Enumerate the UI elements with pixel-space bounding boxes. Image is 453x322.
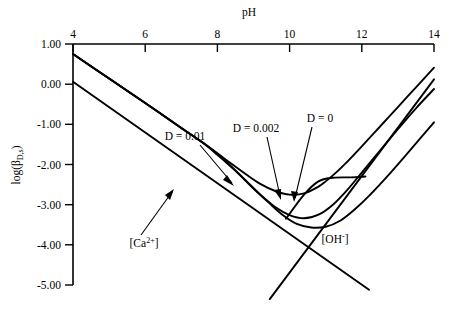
species-label-calcium: [Ca2+] [130, 236, 159, 249]
hydroxide-bracket-close: ] [345, 233, 349, 245]
annotation-calcium: [Ca2+] [130, 189, 174, 249]
arrowhead-d-0.002 [274, 189, 281, 200]
y-tick-label--4.00: -4.00 [37, 239, 61, 251]
annotation-d-0.002: D = 0.002 [233, 122, 281, 200]
x-tick-label-10: 10 [284, 28, 296, 40]
x-tick-label-14: 14 [428, 28, 440, 40]
x-axis: 4 6 8 10 12 14 pH [70, 6, 440, 52]
species-label-hydroxide: [OH-] [322, 232, 349, 245]
x-axis-title: pH [242, 6, 256, 19]
arrowhead-calcium [165, 189, 174, 200]
arrowhead-d-0 [291, 191, 298, 202]
y-tick-label--5.00: -5.00 [37, 279, 61, 291]
annotation-label-d-0.01: D = 0.01 [165, 130, 206, 142]
svg-text:log(βD,s): log(βD,s) [10, 145, 25, 184]
y-axis-title: log(βD,s) [10, 145, 25, 184]
arrowhead-d-0.01 [223, 175, 234, 186]
y-tick-label--2.00: -2.00 [37, 159, 61, 171]
y-tick-label--1.00: -1.00 [37, 118, 61, 130]
calcium-symbol: Ca [133, 237, 146, 249]
y-axis: 1.00 0.00 -1.00 -2.00 -3.00 -4.00 -5.00 … [10, 38, 73, 291]
annotation-hydroxide: [OH-] [322, 232, 349, 245]
x-tick-label-4: 4 [70, 28, 76, 40]
calcium-bracket-close: ] [155, 237, 159, 249]
solubility-chart: 4 6 8 10 12 14 pH 1.00 0.00 -1.00 -2.00 … [0, 0, 453, 322]
annotation-label-d-0.002: D = 0.002 [233, 122, 280, 134]
y-axis-title-tail: ) [10, 145, 23, 149]
x-tick-label-12: 12 [356, 28, 368, 40]
x-tick-label-6: 6 [142, 28, 148, 40]
y-tick-label--3.00: -3.00 [37, 199, 61, 211]
leader-d-0 [295, 127, 312, 198]
y-axis-title-base: log(β [10, 160, 23, 185]
hydroxide-symbol: OH [325, 233, 342, 245]
annotation-label-d-0: D = 0 [307, 112, 334, 124]
leader-d-0.002 [267, 137, 280, 196]
y-tick-label-0.00: 0.00 [41, 78, 61, 90]
asymptote-hydroxide [270, 79, 434, 299]
curve-d-0 [73, 54, 434, 228]
leader-calcium [141, 192, 172, 235]
curve-d-0.002 [73, 54, 434, 218]
x-tick-label-8: 8 [215, 28, 221, 40]
y-axis-title-sub: D,s [16, 149, 25, 160]
annotation-d-0: D = 0 [291, 112, 333, 202]
y-tick-label-1.00: 1.00 [41, 38, 61, 50]
